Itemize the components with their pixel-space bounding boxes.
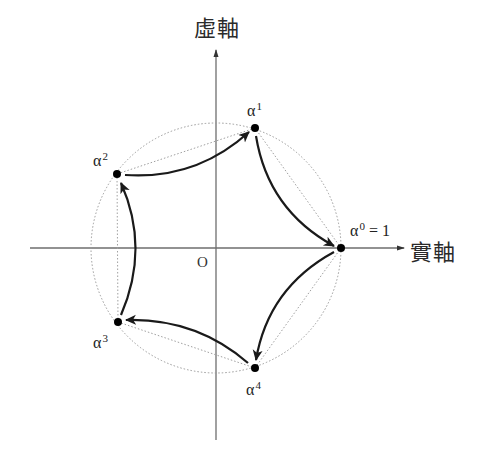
label-base: α [350,222,358,239]
arrow-alpha4-to-alpha3 [126,320,248,363]
label-alpha0: α0 = 1 [350,220,390,240]
label-alpha3: α3 [93,332,108,352]
label-suffix: = 1 [365,222,390,239]
label-exponent: 2 [102,150,108,162]
point-alpha0 [337,244,345,252]
point-alpha2 [113,170,121,178]
label-alpha1: α1 [247,100,262,120]
point-alpha3 [114,318,122,326]
real-axis-label: 實軸 [410,234,456,266]
arrow-alpha1-to-alpha0 [256,136,334,246]
label-base: α [93,152,101,169]
label-alpha2: α2 [93,150,108,170]
point-alpha4 [251,364,259,372]
label-base: α [246,381,254,398]
label-base: α [93,334,101,351]
label-base: α [247,102,255,119]
arrow-alpha3-to-alpha2 [121,183,136,315]
imaginary-axis-label: 虛軸 [194,10,240,42]
label-exponent: 1 [256,100,262,112]
label-exponent: 4 [255,379,261,391]
arrow-alpha0-to-alpha4 [256,252,334,360]
label-exponent: 3 [102,332,108,344]
origin-label: O [197,254,208,271]
label-alpha4: α4 [246,379,261,399]
arrow-alpha2-to-alpha1 [125,132,249,175]
roots-of-unity-diagram [0,0,486,459]
point-alpha1 [251,124,259,132]
